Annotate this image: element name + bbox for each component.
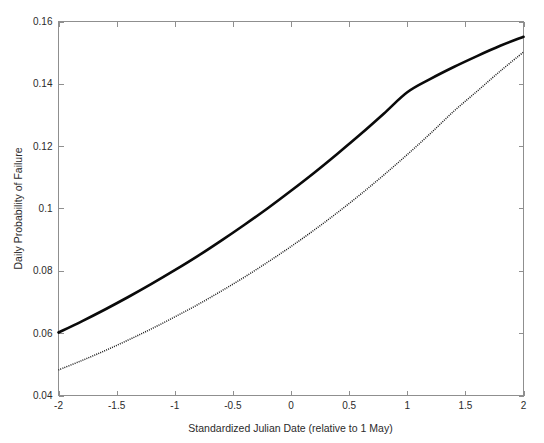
x-tick-label-0: -2 <box>54 400 63 411</box>
x-tick-label-3: -0.5 <box>224 400 242 411</box>
x-axis-label: Standardized Julian Date (relative to 1 … <box>188 422 392 434</box>
y-axis-label: Daily Probability of Failure <box>12 147 24 269</box>
x-axis-tick-labels: -2-1.5-1-0.500.511.52 <box>54 400 527 411</box>
x-tick-label-4: 0 <box>288 400 294 411</box>
y-tick-label-6: 0.16 <box>33 16 53 27</box>
y-axis-tick-labels: 0.040.060.080.10.120.140.16 <box>33 16 53 401</box>
y-tick-label-0: 0.04 <box>33 390 53 401</box>
x-tick-label-8: 2 <box>521 400 527 411</box>
x-tick-label-5: 0.5 <box>342 400 356 411</box>
figure-canvas: -2-1.5-1-0.500.511.52 0.040.060.080.10.1… <box>0 0 544 443</box>
y-tick-label-4: 0.12 <box>33 141 53 152</box>
x-tick-label-6: 1 <box>404 400 410 411</box>
series-upper-curve <box>59 37 524 333</box>
y-tick-label-1: 0.06 <box>33 328 53 339</box>
chart-plot: -2-1.5-1-0.500.511.52 0.040.060.080.10.1… <box>0 0 544 443</box>
series-lower-curve <box>59 52 524 370</box>
y-tick-label-3: 0.1 <box>39 203 53 214</box>
x-tick-label-1: -1.5 <box>108 400 126 411</box>
y-tick-label-5: 0.14 <box>33 78 53 89</box>
x-axis-ticks <box>60 22 525 396</box>
y-tick-label-2: 0.08 <box>33 265 53 276</box>
x-tick-label-7: 1.5 <box>458 400 472 411</box>
x-tick-label-2: -1 <box>170 400 179 411</box>
